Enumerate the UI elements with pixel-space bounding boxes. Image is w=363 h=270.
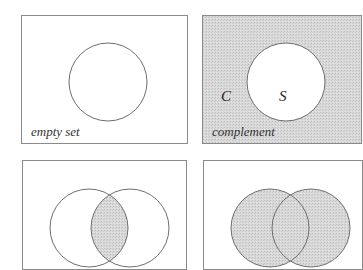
panel-union xyxy=(203,160,363,270)
set-circle xyxy=(69,43,147,121)
label-c: C xyxy=(221,88,231,105)
set-circle xyxy=(247,43,325,121)
caption-empty-set: empty set xyxy=(31,124,80,140)
union-diagram xyxy=(204,161,363,270)
label-s: S xyxy=(279,88,287,105)
panel-complement: C S complement xyxy=(202,15,362,144)
panel-intersection xyxy=(22,160,187,270)
caption-complement: complement xyxy=(212,124,275,140)
panel-empty-set: empty set xyxy=(21,15,188,144)
intersection-diagram xyxy=(23,161,187,270)
